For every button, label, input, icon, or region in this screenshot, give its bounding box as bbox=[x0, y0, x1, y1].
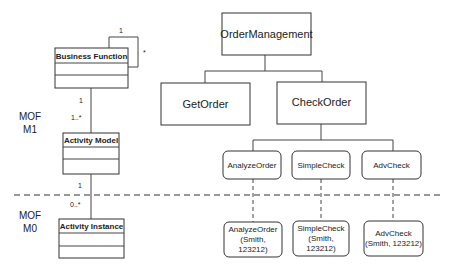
class-activity-instance[interactable]: Activity Instance bbox=[59, 219, 124, 258]
svg-text:GetOrder: GetOrder bbox=[183, 98, 229, 110]
multiplicity-bf-am-upper: 1 bbox=[79, 97, 83, 104]
instance-node-analyze-order[interactable]: AnalyzeOrder (Smith, 123212) bbox=[224, 222, 282, 257]
node-check-order[interactable]: CheckOrder bbox=[277, 82, 366, 124]
activity-node-simple-check[interactable]: SimpleCheck bbox=[292, 151, 350, 179]
activity-node-adv-check[interactable]: AdvCheck bbox=[362, 151, 421, 179]
svg-text:(Smith, 123212): (Smith, 123212) bbox=[365, 239, 422, 248]
node-order-management[interactable]: OrderManagement bbox=[220, 13, 312, 55]
svg-text:OrderManagement: OrderManagement bbox=[220, 28, 312, 40]
instance-node-adv-check[interactable]: AdvCheck (Smith, 123212) bbox=[364, 221, 423, 256]
activity-node-analyze-order[interactable]: AnalyzeOrder bbox=[223, 151, 281, 179]
svg-text:SimpleCheck: SimpleCheck bbox=[297, 161, 345, 170]
instance-of-connectors bbox=[253, 179, 393, 222]
svg-text:MOF: MOF bbox=[19, 210, 41, 221]
multiplicity-self-top: 1 bbox=[119, 27, 123, 34]
mof-diagram: MOF M1 MOF M0 1 * Business Function 1 1.… bbox=[0, 0, 449, 271]
level-label-m1: MOF M1 bbox=[19, 111, 41, 135]
svg-text:Activity Instance: Activity Instance bbox=[60, 222, 124, 231]
svg-text:Activity Model: Activity Model bbox=[64, 136, 118, 145]
multiplicity-self-side: * bbox=[143, 49, 146, 56]
svg-text:123212): 123212) bbox=[306, 244, 336, 253]
svg-text:AnalyzeOrder: AnalyzeOrder bbox=[229, 225, 278, 234]
svg-text:MOF: MOF bbox=[19, 111, 41, 122]
svg-text:123212): 123212) bbox=[238, 245, 268, 254]
svg-text:SimpleCheck: SimpleCheck bbox=[297, 224, 345, 233]
svg-text:M1: M1 bbox=[23, 124, 37, 135]
svg-text:(Smith,: (Smith, bbox=[308, 234, 333, 243]
multiplicity-am-ai-upper: 1 bbox=[78, 182, 82, 189]
multiplicity-bf-am-lower: 1..* bbox=[71, 114, 82, 121]
svg-text:AdvCheck: AdvCheck bbox=[373, 161, 410, 170]
class-activity-model[interactable]: Activity Model bbox=[63, 133, 119, 174]
svg-text:AnalyzeOrder: AnalyzeOrder bbox=[228, 161, 277, 170]
instance-node-simple-check[interactable]: SimpleCheck (Smith, 123212) bbox=[293, 221, 349, 256]
svg-text:Business Function: Business Function bbox=[56, 52, 128, 61]
node-get-order[interactable]: GetOrder bbox=[161, 83, 250, 125]
svg-text:CheckOrder: CheckOrder bbox=[292, 96, 352, 108]
multiplicity-am-ai-lower: 0..* bbox=[70, 201, 81, 208]
svg-text:M0: M0 bbox=[23, 223, 37, 234]
svg-text:(Smith,: (Smith, bbox=[240, 235, 265, 244]
level-label-m0: MOF M0 bbox=[19, 210, 41, 234]
svg-text:AdvCheck: AdvCheck bbox=[375, 229, 412, 238]
class-business-function[interactable]: Business Function bbox=[55, 48, 128, 88]
